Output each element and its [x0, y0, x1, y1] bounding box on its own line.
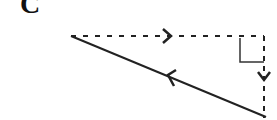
- vector-triangle-diagram: [0, 0, 277, 120]
- right-angle-marker: [240, 38, 264, 62]
